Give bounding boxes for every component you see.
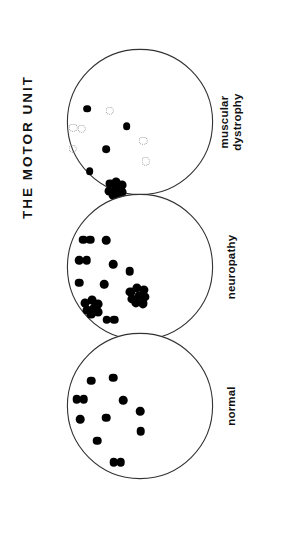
fiber-marker bbox=[119, 396, 128, 405]
atrophied-fiber-marker bbox=[68, 144, 77, 153]
panel-label-line2: dystrophy bbox=[231, 93, 244, 150]
panel-label-line1: muscular bbox=[218, 96, 231, 149]
panel-label-line1: neuropathy bbox=[225, 235, 238, 300]
atrophied-fiber-marker bbox=[142, 157, 151, 166]
fiber-marker bbox=[102, 146, 110, 154]
figure-root: THE MOTOR UNIT muscular dystrophy neurop… bbox=[0, 0, 288, 537]
fiber-dot-layer bbox=[66, 332, 214, 480]
panel-normal bbox=[66, 332, 214, 480]
fiber-marker bbox=[125, 267, 134, 276]
fiber-marker bbox=[93, 436, 102, 445]
atrophied-fiber-marker bbox=[139, 136, 148, 145]
fiber-dot-layer bbox=[66, 48, 214, 196]
fiber-marker bbox=[102, 414, 111, 423]
panel-label-muscular-dystrophy: muscular dystrophy bbox=[214, 48, 248, 196]
panel-muscular-dystrophy bbox=[66, 48, 214, 196]
fiber-marker bbox=[86, 167, 94, 175]
fiber-dot-layer bbox=[66, 193, 214, 341]
fiber-marker bbox=[84, 105, 92, 113]
fiber-marker bbox=[109, 260, 118, 269]
fiber-marker bbox=[76, 415, 85, 424]
fiber-marker bbox=[102, 236, 111, 245]
panel-label-neuropathy: neuropathy bbox=[214, 193, 248, 341]
panel-neuropathy bbox=[66, 193, 214, 341]
atrophied-fiber-marker bbox=[105, 107, 114, 116]
fiber-marker bbox=[100, 280, 109, 289]
fiber-marker bbox=[75, 278, 84, 287]
fiber-marker bbox=[136, 427, 145, 436]
panel-label-line1: normal bbox=[225, 386, 238, 426]
atrophied-fiber-marker bbox=[77, 124, 86, 133]
panel-label-normal: normal bbox=[214, 332, 248, 480]
fiber-marker bbox=[109, 374, 118, 383]
fiber-marker bbox=[123, 123, 131, 131]
fiber-marker bbox=[136, 407, 145, 416]
fiber-marker bbox=[87, 377, 96, 386]
page-title: THE MOTOR UNIT bbox=[16, 57, 40, 237]
